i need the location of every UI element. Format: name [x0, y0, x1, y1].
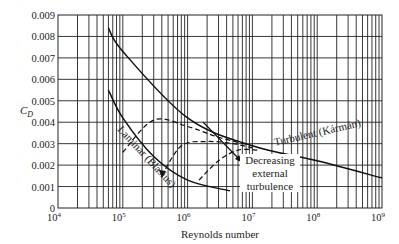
decreasing-turbulence-annotation: Decreasing external turbulence: [240, 154, 300, 192]
y-tick-label: 0.008: [31, 31, 55, 42]
plot-frame: [58, 15, 382, 208]
y-tick-label: 0.009: [31, 10, 55, 21]
svg-text:Decreasing: Decreasing: [245, 154, 295, 166]
x-tick-label: 107: [241, 211, 256, 223]
x-tick-label: 106: [177, 211, 192, 223]
svg-text:external: external: [252, 167, 287, 179]
y-tick-label: 0.002: [31, 160, 55, 171]
y-tick-label: 0.005: [31, 96, 55, 107]
x-axis-label: Reynolds number: [181, 228, 259, 240]
laminar-blasius-label: Laminar (Blasius): [115, 123, 179, 190]
y-axis-ticks: 00.0010.0020.0030.0040.0050.0060.0070.00…: [31, 10, 55, 214]
y-tick-label: 0.007: [31, 53, 55, 64]
x-tick-label: 105: [112, 211, 127, 223]
x-tick-label: 109: [371, 211, 386, 223]
x-axis-ticks: 104105106107108109: [47, 211, 386, 223]
y-tick-label: 0.004: [31, 117, 55, 128]
x-tick-label: 104: [47, 211, 62, 223]
x-tick-label: 108: [306, 211, 321, 223]
grid-lines: [58, 15, 382, 208]
svg-text:turbulence: turbulence: [247, 180, 294, 192]
y-tick-label: 0.003: [31, 139, 55, 150]
drag-coefficient-chart: 00.0010.0020.0030.0040.0050.0060.0070.00…: [0, 0, 399, 244]
y-tick-label: 0.001: [31, 182, 55, 193]
y-tick-label: 0.006: [31, 74, 55, 85]
